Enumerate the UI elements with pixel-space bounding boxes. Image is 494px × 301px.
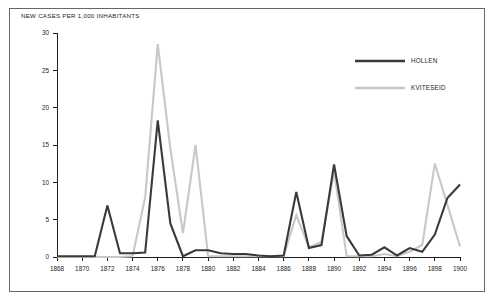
y-tick-label: 20	[42, 104, 50, 111]
x-tick-label: 1896	[403, 265, 418, 272]
x-tick-label: 1898	[428, 265, 443, 272]
y-tick-label: 10	[42, 179, 50, 186]
x-tick-label: 1878	[176, 265, 191, 272]
x-tick-label: 1870	[75, 265, 90, 272]
x-tick-label: 1894	[377, 265, 392, 272]
x-tick-label: 1892	[352, 265, 367, 272]
series-line-kviteseid	[57, 44, 460, 257]
y-tick-label: 5	[45, 216, 49, 223]
y-tick-label: 30	[42, 29, 50, 36]
x-tick-label: 1884	[251, 265, 266, 272]
x-tick-label: 1868	[50, 265, 65, 272]
y-tick-label: 15	[42, 141, 50, 148]
x-tick-label: 1874	[125, 265, 140, 272]
line-chart-plot: 0510152025301868187018721874187618781880…	[0, 0, 494, 301]
x-tick-label: 1872	[100, 265, 115, 272]
x-tick-label: 1882	[226, 265, 241, 272]
x-tick-label: 1900	[453, 265, 468, 272]
x-tick-label: 1876	[151, 265, 166, 272]
legend-label-hollen: HOLLEN	[411, 57, 438, 64]
x-tick-label: 1890	[327, 265, 342, 272]
y-tick-label: 0	[45, 253, 49, 260]
x-tick-label: 1880	[201, 265, 216, 272]
y-tick-label: 25	[42, 67, 50, 74]
series-line-hollen	[57, 120, 460, 256]
x-tick-label: 1886	[277, 265, 292, 272]
legend-label-kviteseid: KVITESEID	[411, 84, 446, 91]
x-tick-label: 1888	[302, 265, 317, 272]
chart-figure: NEW CASES PER 1,000 INHABITANTS 05101520…	[0, 0, 494, 301]
